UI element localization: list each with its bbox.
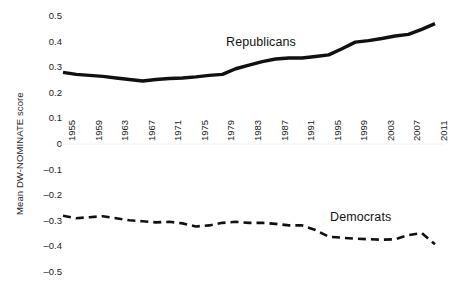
chart-container: Mean DW-NOMINATE score 0.50.40.30.20.10–… (0, 0, 457, 295)
series-line-republicans (63, 24, 435, 81)
series-label-republicans: Republicans (226, 35, 296, 49)
series-label-democrats: Democrats (330, 210, 391, 224)
